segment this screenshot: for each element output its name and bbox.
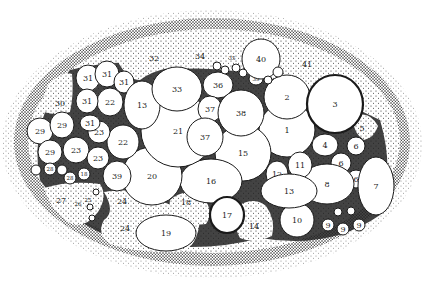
region-label-32: 32 — [149, 54, 159, 63]
cell-label: 36 — [213, 81, 223, 90]
cell-label: 7 — [373, 182, 378, 191]
tiny-cell — [213, 62, 221, 70]
cell-37: 37 — [187, 118, 223, 156]
region-label-25: 25 — [85, 197, 92, 203]
region-label-27: 27 — [56, 196, 66, 205]
cell-3: 3 — [307, 75, 363, 133]
cell-label: 31 — [119, 78, 129, 87]
tiny-cell — [87, 204, 93, 210]
cell-label: 17 — [222, 211, 232, 220]
region-label-35: 35 — [229, 55, 236, 61]
cell-28: 28 — [44, 163, 56, 175]
cell-39: 39 — [103, 161, 131, 191]
cell-13: 13 — [261, 174, 317, 208]
region-label-34: 34 — [195, 52, 205, 61]
cell-7: 7 — [358, 157, 394, 215]
cell-29: 29 — [50, 112, 74, 138]
cell-6: 6 — [347, 137, 365, 155]
cell-label: 31 — [82, 97, 92, 106]
cell-label: 16 — [206, 177, 216, 186]
region-label-14: 14 — [249, 222, 259, 231]
cell-label: 39 — [112, 172, 122, 181]
cell-label: 29 — [57, 121, 67, 130]
cell-label: 22 — [118, 138, 128, 147]
cell-label: 29 — [35, 127, 45, 136]
cell-23: 23 — [63, 137, 89, 163]
cell-31: 31 — [76, 89, 98, 113]
cell-label: 2 — [284, 93, 289, 102]
cell-label: 40 — [256, 55, 266, 64]
cell-label: 31 — [102, 70, 112, 79]
cell-label: 9 — [340, 225, 345, 234]
cell-label: 37 — [205, 105, 215, 114]
cell-label: 9 — [325, 221, 330, 230]
cell-label: 28 — [47, 166, 54, 172]
cell-23: 23 — [87, 147, 109, 169]
cell-label: 10 — [292, 216, 302, 225]
cell-31: 31 — [80, 115, 100, 131]
cell-label: 3 — [332, 100, 337, 109]
cell-19: 19 — [136, 215, 196, 251]
cell-33: 33 — [152, 67, 202, 111]
cell-label: 15 — [238, 149, 248, 158]
tiny-cell — [221, 66, 229, 74]
tiny-cell — [239, 69, 247, 77]
cell-label: 38 — [236, 109, 246, 118]
cell-17: 17 — [210, 197, 244, 233]
cell-9: 9 — [322, 219, 334, 231]
cell-label: 1 — [284, 126, 289, 135]
tiny-cell — [347, 207, 355, 215]
cell-label: 33 — [172, 85, 182, 94]
cell-label: 22 — [105, 98, 115, 107]
tiny-cell — [232, 64, 240, 72]
cell-label: 29 — [45, 148, 55, 157]
region-label-24: 24 — [120, 224, 130, 233]
cell-label: 13 — [284, 187, 294, 196]
tiny-cell — [273, 67, 283, 77]
region-label-26: 26 — [75, 201, 82, 207]
cell-label: 4 — [322, 141, 327, 150]
cell-label: 8 — [324, 180, 329, 189]
cell-diagram: 1234666789991011121315161719202122222323… — [0, 0, 422, 282]
cell-9: 9 — [337, 223, 349, 235]
cell-18: 18 — [78, 168, 90, 180]
cell-38: 38 — [218, 90, 264, 136]
tiny-cell — [31, 165, 41, 175]
cell-label: 37 — [200, 133, 210, 142]
cell-22: 22 — [107, 125, 139, 159]
cell-label: 13 — [137, 101, 147, 110]
tiny-cell — [334, 208, 342, 216]
cell-label: 31 — [83, 74, 93, 83]
cell-label: 21 — [173, 127, 183, 136]
cell-label: 31 — [85, 119, 95, 128]
region-label-30: 30 — [55, 99, 65, 108]
cell-9: 9 — [353, 219, 365, 231]
cell-label: 20 — [147, 172, 157, 181]
cell-label: 6 — [353, 142, 358, 151]
cell-label: 9 — [356, 221, 361, 230]
tiny-cell — [264, 76, 272, 84]
tiny-cell — [57, 165, 67, 175]
cell-label: 23 — [93, 154, 103, 163]
cell-label: 23 — [71, 146, 81, 155]
region-label-18: 18 — [181, 198, 191, 207]
tiny-cell — [89, 215, 95, 221]
cell-4: 4 — [312, 134, 338, 156]
cell-label: 11 — [295, 161, 305, 170]
cell-29: 29 — [38, 140, 62, 164]
cell-label: 18 — [81, 171, 88, 177]
cell-label: 19 — [161, 229, 171, 238]
region-label-5: 5 — [359, 124, 364, 133]
cell-label: 28 — [67, 175, 74, 181]
tiny-cell — [93, 189, 99, 195]
region-label-24: 24 — [117, 197, 127, 206]
region-label-41: 41 — [302, 60, 312, 69]
